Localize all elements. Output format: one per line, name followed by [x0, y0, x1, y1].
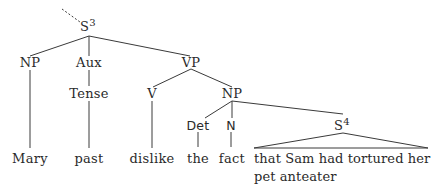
dashed-parent-edge [62, 9, 80, 22]
node-vp: VP [182, 56, 201, 70]
node-s4-index: 4 [343, 116, 350, 127]
leaf-mary: Mary [12, 152, 48, 166]
leaf-clause-line1: that Sam had tortured her [254, 152, 430, 166]
node-np-object: NP [222, 87, 243, 101]
leaf-dislike: dislike [129, 152, 174, 166]
leaf-past: past [74, 152, 103, 166]
node-v: V [147, 87, 157, 101]
node-det: Det [186, 119, 209, 133]
node-s3: S3 [80, 20, 96, 35]
node-aux: Aux [76, 56, 102, 70]
node-tense: Tense [69, 87, 109, 101]
node-s3-index: 3 [89, 17, 96, 28]
node-np-subject: NP [20, 56, 41, 70]
node-s3-label: S [80, 19, 89, 34]
leaf-clause-line2: pet anteater [254, 170, 337, 184]
leaf-fact: fact [219, 152, 245, 166]
node-s4: S4 [334, 119, 350, 134]
leaf-the: the [187, 152, 209, 166]
node-n: N [226, 119, 236, 133]
node-s4-label: S [334, 118, 343, 133]
